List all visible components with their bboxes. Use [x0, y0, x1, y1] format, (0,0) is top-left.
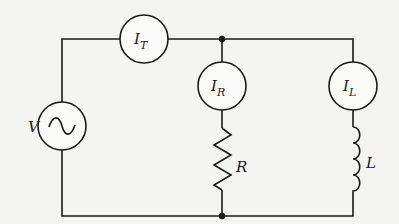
inductor-coil-icon: [353, 127, 360, 194]
resistor-label: R: [235, 158, 247, 176]
ammeter-total: IT: [120, 15, 168, 63]
inductor: L: [353, 127, 376, 194]
wire-left-top: [62, 39, 120, 102]
ac-source: V: [28, 102, 86, 150]
wires: [62, 39, 353, 216]
junction-top: [219, 36, 225, 42]
circuit-diagram: V IT IR IL R L: [0, 0, 399, 224]
resistor: R: [214, 128, 247, 190]
wire-top: [168, 39, 353, 62]
ammeter-resistor: IR: [198, 62, 246, 110]
ammeter-inductor: IL: [329, 62, 377, 110]
wire-bottom: [62, 150, 353, 216]
junction-bottom: [219, 213, 225, 219]
resistor-zigzag-icon: [214, 128, 231, 190]
inductor-label: L: [365, 154, 376, 172]
